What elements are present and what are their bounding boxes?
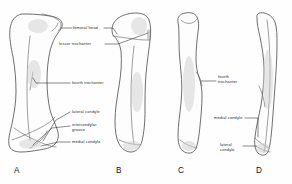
- label-medial-condyle-left: medial condyle: [72, 139, 100, 144]
- panel-a-stipple-shaft: [27, 60, 41, 88]
- label-lateral-condyle-right-line2: condyle: [220, 147, 235, 152]
- bone-illustrations: [0, 0, 292, 184]
- label-lesser-trochanter: lesser trochanter: [59, 41, 91, 46]
- panel-d-stipple-shaft: [263, 50, 273, 110]
- panel-c-bone: [178, 13, 202, 153]
- panel-d-stipple-distal: [256, 143, 270, 153]
- panel-a-stipple-proximal: [28, 19, 48, 33]
- panel-letter-c: C: [178, 166, 184, 175]
- panel-c-stipple-shaft: [183, 56, 195, 112]
- label-intercondylar-groove-line2: groove: [72, 127, 85, 132]
- panel-b-stipple-proximal: [131, 17, 147, 35]
- panel-letter-b: B: [116, 166, 121, 175]
- panel-letter-a: A: [14, 166, 19, 175]
- label-lateral-condyle-left: lateral condyle: [72, 109, 100, 114]
- panel-letter-d: D: [256, 166, 262, 175]
- label-fourth-trochanter-right-line2: trochanter: [218, 79, 237, 84]
- panel-b-stipple-distal: [123, 141, 141, 151]
- femur-anatomy-figure: femoral head lesser trochanter fourth tr…: [0, 0, 292, 184]
- label-fourth-trochanter-left: fourth trochanter: [72, 80, 104, 85]
- label-femoral-head: femoral head: [73, 25, 98, 30]
- label-medial-condyle-right: medial condyle: [214, 115, 242, 120]
- panel-b-stipple-shaft: [131, 72, 143, 112]
- panel-c-stipple-distal: [182, 141, 196, 151]
